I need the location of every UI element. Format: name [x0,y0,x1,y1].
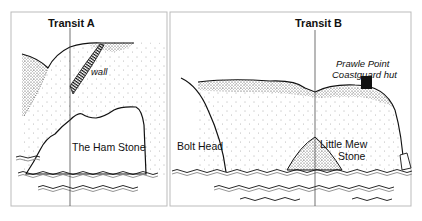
transit-diagram: wall The Ham Stone Transit A Bolt Head [0,0,422,221]
panel-transit-a: wall The Ham Stone Transit A [16,17,166,206]
small-rock [400,153,411,170]
ham-stone-label: The Ham Stone [72,141,146,153]
mew-stone-label-line1: Little Mew [320,138,368,150]
wall-label: wall [91,66,108,77]
hut-label-line1: Prawle Point [336,58,390,69]
hut-label-line2: Coastguard hut [332,69,397,80]
panel-transit-b: Bolt Head Prawle Point Coastguard hut Li… [172,17,412,206]
bolt-head-label: Bolt Head [177,140,223,152]
water-b [172,170,412,201]
panel-b-title: Transit B [295,17,342,29]
panel-a-title: Transit A [48,17,95,29]
mew-stone-label-line2: Stone [338,150,366,162]
